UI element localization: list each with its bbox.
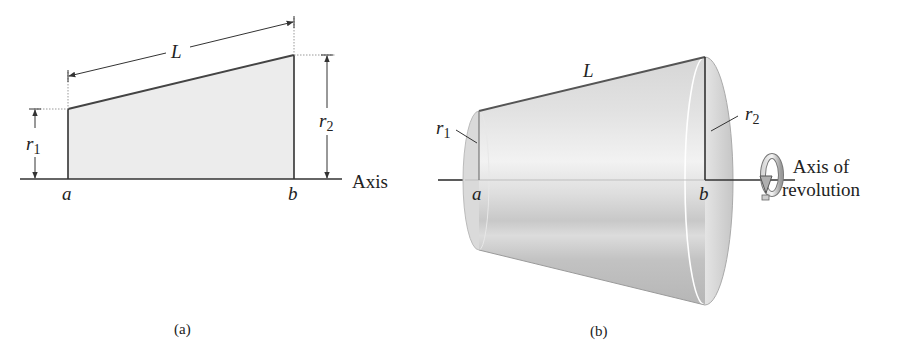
point-a-label: a xyxy=(62,183,72,204)
caption-a: (a) xyxy=(174,321,191,338)
surface-of-revolution-figure: L r1 r2 a b Axis (a) xyxy=(0,0,913,360)
r1-label: r1 xyxy=(436,117,450,141)
point-b-label: b xyxy=(288,183,298,204)
point-b-label: b xyxy=(699,183,709,204)
axis-of-revolution-label: Axis of xyxy=(793,156,850,177)
length-arrow-left xyxy=(69,53,166,76)
length-label: L xyxy=(582,60,594,81)
region-under-curve xyxy=(68,55,294,179)
panel-a: L r1 r2 a b Axis (a) xyxy=(20,16,388,338)
caption-b: (b) xyxy=(590,323,608,340)
axis-label: Axis xyxy=(352,171,388,192)
length-arrow-right xyxy=(190,22,293,47)
r2-label: r2 xyxy=(319,110,333,134)
length-label: L xyxy=(170,41,182,62)
r2-label: r2 xyxy=(745,103,759,127)
frustum-surface xyxy=(479,57,705,305)
point-a-label: a xyxy=(472,183,482,204)
rotation-arrow-icon xyxy=(760,156,781,200)
r1-label: r1 xyxy=(26,133,40,157)
right-cap xyxy=(705,57,733,305)
panel-b: L r1 r2 a b Axis of revolution (b) xyxy=(436,57,861,340)
axis-of-revolution-label-line2: revolution xyxy=(782,179,861,200)
